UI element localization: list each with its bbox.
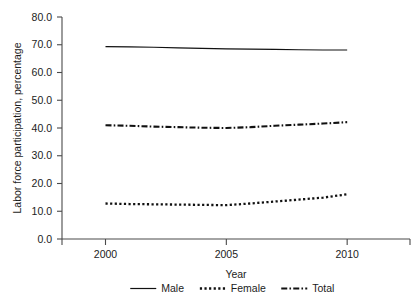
series-line-total bbox=[106, 122, 348, 128]
x-tick-label: 2005 bbox=[215, 248, 239, 260]
chart-container: 0.010.020.030.040.050.060.070.080.0 2000… bbox=[0, 0, 419, 305]
y-tick-label: 10.0 bbox=[32, 205, 53, 217]
y-tick-label: 50.0 bbox=[32, 94, 53, 106]
y-tick-label: 80.0 bbox=[32, 11, 53, 23]
x-axis-title: Year bbox=[225, 268, 247, 280]
line-chart: 0.010.020.030.040.050.060.070.080.0 2000… bbox=[0, 0, 419, 305]
x-tick-label: 2010 bbox=[335, 248, 359, 260]
y-axis-title: Labor force participation, percentage bbox=[11, 42, 23, 213]
y-tick-label: 70.0 bbox=[32, 38, 53, 50]
y-axis-ticks: 0.010.020.030.040.050.060.070.080.0 bbox=[32, 11, 62, 245]
y-tick-label: 0.0 bbox=[37, 233, 52, 245]
legend-label-male: Male bbox=[161, 282, 184, 294]
y-tick-label: 20.0 bbox=[32, 177, 53, 189]
data-series-group bbox=[106, 47, 348, 205]
legend-label-total: Total bbox=[312, 282, 334, 294]
legend-label-female: Female bbox=[231, 282, 266, 294]
series-line-male bbox=[106, 47, 348, 50]
series-line-female bbox=[106, 194, 348, 205]
y-tick-label: 60.0 bbox=[32, 66, 53, 78]
chart-legend: MaleFemaleTotal bbox=[130, 282, 334, 294]
y-tick-label: 40.0 bbox=[32, 122, 53, 134]
x-axis-ticks: 200020052010 bbox=[62, 239, 410, 260]
x-tick-label: 2000 bbox=[94, 248, 118, 260]
y-tick-label: 30.0 bbox=[32, 149, 53, 161]
